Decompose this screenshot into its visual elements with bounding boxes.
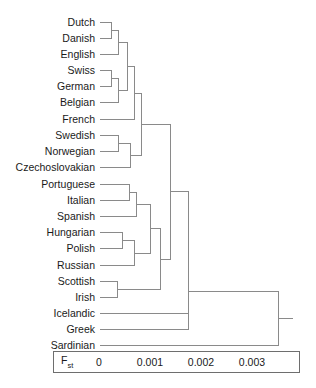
- fst-tick-3: 0.003: [239, 356, 265, 368]
- leaf-label-english: English: [61, 48, 95, 60]
- leaf-label-danish: Danish: [62, 32, 95, 44]
- leaf-label-icelandic: Icelandic: [54, 307, 95, 319]
- leaf-label-dutch: Dutch: [68, 16, 95, 28]
- leaf-label-sardinian: Sardinian: [51, 339, 95, 351]
- fst-tick-0: 0: [96, 356, 102, 368]
- leaf-label-french: French: [62, 113, 95, 125]
- leaf-label-scottish: Scottish: [58, 275, 95, 287]
- dendrogram-figure: DutchDanishEnglishSwissGermanBelgianFren…: [0, 0, 316, 388]
- leaf-label-hungarian: Hungarian: [47, 226, 95, 238]
- fst-metric-subscript: st: [67, 361, 73, 370]
- dendrogram-tree: [0, 0, 316, 388]
- leaf-label-norwegian: Norwegian: [45, 145, 95, 157]
- leaf-label-greek: Greek: [66, 323, 95, 335]
- fst-tick-2: 0.002: [188, 356, 214, 368]
- leaf-label-italian: Italian: [67, 194, 95, 206]
- leaf-label-russian: Russian: [57, 259, 95, 271]
- leaf-label-irish: Irish: [75, 291, 95, 303]
- leaf-label-czechoslovakian: Czechoslovakian: [16, 161, 95, 173]
- leaf-label-swedish: Swedish: [55, 129, 95, 141]
- leaf-label-portuguese: Portuguese: [41, 178, 95, 190]
- leaf-label-spanish: Spanish: [57, 210, 95, 222]
- leaf-label-belgian: Belgian: [60, 96, 95, 108]
- leaf-label-german: German: [57, 80, 95, 92]
- leaf-label-polish: Polish: [66, 242, 95, 254]
- leaf-label-swiss: Swiss: [68, 64, 95, 76]
- fst-metric-label: Fst: [61, 354, 73, 369]
- fst-tick-1: 0.001: [137, 356, 163, 368]
